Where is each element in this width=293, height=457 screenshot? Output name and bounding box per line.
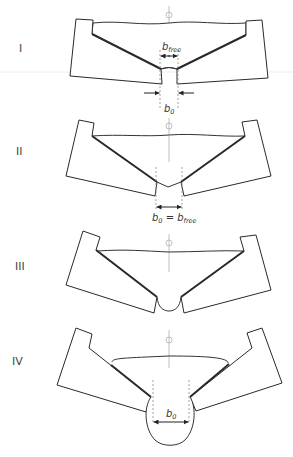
- stage-III: III: [15, 231, 271, 313]
- left-plate: [57, 328, 151, 412]
- weld-pool-surface: [92, 134, 245, 136]
- label-b0: b0: [164, 103, 175, 116]
- root-bulge: [157, 297, 181, 311]
- weld-pool-surface: [98, 250, 244, 252]
- left-plate: [66, 231, 157, 313]
- right-plate: [190, 328, 282, 411]
- root-surface: [157, 182, 181, 187]
- label-b0-equals-bfree: b0 = bfree: [152, 212, 197, 225]
- stage-IV: IV b0: [12, 328, 282, 445]
- right-plate: [181, 120, 271, 196]
- left-plate: [66, 120, 157, 196]
- weld-pool-diagram: I bfree b0 II: [0, 0, 293, 457]
- stage-label-II: II: [16, 145, 23, 158]
- right-plate: [181, 235, 271, 313]
- weld-pool-surface: [112, 356, 228, 363]
- stage-I: I bfree b0: [19, 6, 268, 116]
- stage-label-III: III: [15, 260, 25, 273]
- stage-II: II b0 = bfree: [16, 118, 271, 225]
- stage-label-IV: IV: [12, 355, 23, 368]
- stage-label-I: I: [19, 42, 22, 55]
